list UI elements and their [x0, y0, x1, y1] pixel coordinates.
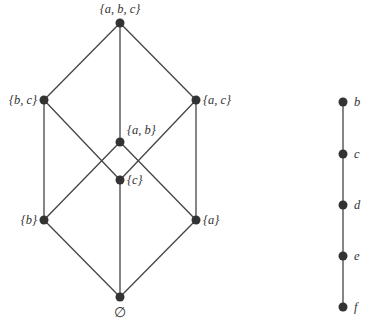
node-empty — [116, 293, 125, 302]
edge-ac-c — [120, 100, 196, 180]
node-label-ac: {a, c} — [203, 93, 231, 107]
node-label-a: {a} — [203, 213, 219, 227]
node-label-bc: {b, c} — [9, 93, 37, 107]
chain-label-e: e — [354, 249, 360, 263]
node-ab — [116, 138, 125, 147]
edge-ab-b — [44, 142, 120, 220]
node-b — [40, 216, 49, 225]
chain-nodes: bcdef — [339, 95, 362, 314]
edge-abc-bc — [44, 23, 120, 100]
chain-node-e — [339, 252, 348, 261]
node-c — [116, 176, 125, 185]
chain-label-f: f — [354, 300, 359, 314]
edge-bc-c — [44, 100, 120, 180]
chain-node-b — [339, 98, 348, 107]
node-label-c: {c} — [127, 173, 143, 187]
power-set-lattice-edges — [44, 23, 196, 297]
edge-abc-ac — [120, 23, 196, 100]
node-abc — [116, 19, 125, 28]
chain-label-c: c — [354, 147, 360, 161]
chain-node-d — [339, 201, 348, 210]
edge-a-empty — [120, 220, 196, 297]
chain-node-f — [339, 303, 348, 312]
chain-node-c — [339, 150, 348, 159]
node-label-b: {b} — [21, 213, 37, 227]
node-a — [192, 216, 201, 225]
chain-label-b: b — [354, 95, 360, 109]
edge-b-empty — [44, 220, 120, 297]
hasse-diagram-canvas: {a, b, c}{b, c}{a, c}{a, b}{c}{b}{a}∅ bc… — [0, 0, 369, 328]
node-label-ab: {a, b} — [127, 123, 156, 137]
node-bc — [40, 96, 49, 105]
chain-label-d: d — [354, 198, 361, 212]
node-ac — [192, 96, 201, 105]
node-label-abc: {a, b, c} — [100, 2, 141, 16]
node-label-empty: ∅ — [114, 305, 126, 320]
